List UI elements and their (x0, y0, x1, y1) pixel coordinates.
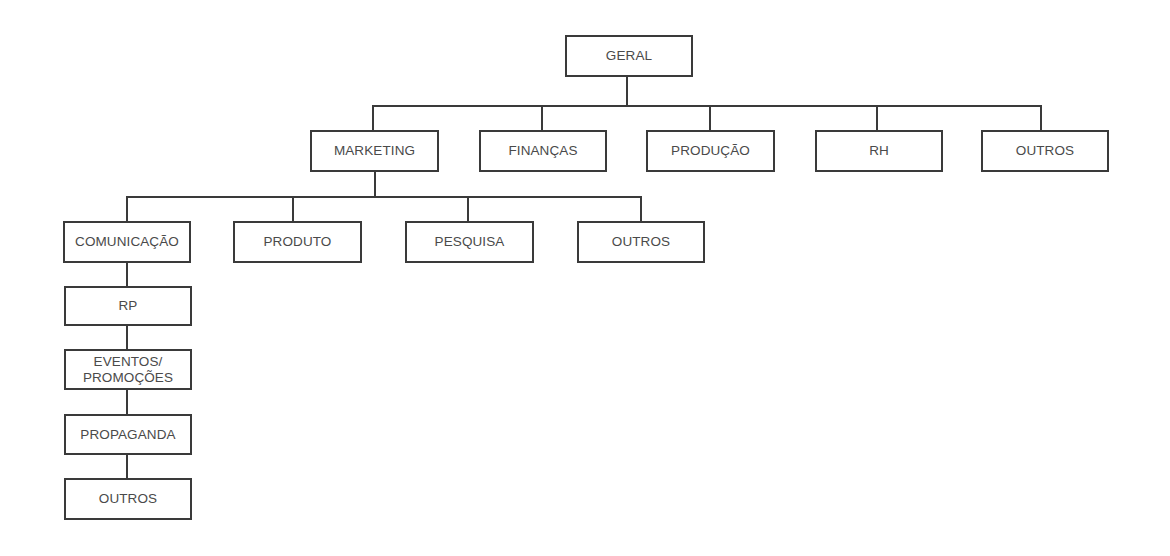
node-label: GERAL (606, 48, 652, 64)
connector (374, 171, 376, 198)
node-rp: RP (64, 286, 192, 326)
node-label: PRODUTO (264, 234, 332, 250)
node-rh: RH (815, 130, 943, 172)
connector (126, 196, 128, 222)
node-label: OUTROS (1016, 143, 1074, 159)
connector (372, 105, 374, 131)
node-label-line2: PROMOÇÕES (83, 370, 173, 386)
connector (372, 105, 1042, 107)
connector (541, 105, 543, 131)
node-pesquisa: PESQUISA (405, 221, 534, 263)
connector (126, 389, 128, 415)
node-eventos-promocoes: EVENTOS/ PROMOÇÕES (64, 349, 192, 390)
node-label: PROPAGANDA (80, 427, 175, 443)
node-outros-comunicacao: OUTROS (64, 478, 192, 520)
node-marketing: MARKETING (310, 130, 439, 172)
node-propaganda: PROPAGANDA (64, 414, 192, 455)
connector (126, 196, 642, 198)
connector (126, 325, 128, 350)
node-outros-marketing: OUTROS (577, 221, 705, 263)
node-label: PESQUISA (435, 234, 505, 250)
node-label-line1: EVENTOS/ (94, 354, 163, 370)
node-label: OUTROS (612, 234, 670, 250)
node-label: MARKETING (334, 143, 415, 159)
node-financas: FINANÇAS (479, 130, 607, 172)
node-produto: PRODUTO (233, 221, 362, 263)
node-label: OUTROS (99, 491, 157, 507)
connector (640, 196, 642, 222)
node-label: PRODUÇÃO (671, 143, 750, 159)
connector (1040, 105, 1042, 131)
connector (126, 454, 128, 479)
node-label: RP (119, 298, 138, 314)
node-producao: PRODUÇÃO (646, 130, 775, 172)
connector (467, 196, 469, 222)
connector (292, 196, 294, 222)
node-label: RH (869, 143, 889, 159)
node-label: FINANÇAS (508, 143, 577, 159)
node-geral: GERAL (565, 35, 693, 77)
connector (876, 105, 878, 131)
node-outros-l2: OUTROS (981, 130, 1109, 172)
connector (709, 105, 711, 131)
node-comunicacao: COMUNICAÇÃO (63, 221, 191, 263)
connector (126, 262, 128, 287)
node-label: COMUNICAÇÃO (75, 234, 179, 250)
connector (626, 76, 628, 107)
